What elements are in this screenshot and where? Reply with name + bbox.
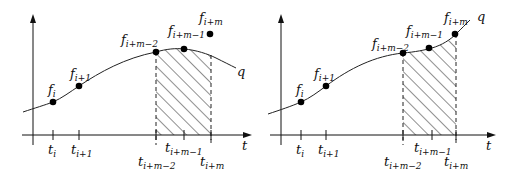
point-label-fi1: fi+1 [69, 66, 91, 83]
tick-label: ti+m [444, 154, 468, 171]
left-panel: fi fi+1 fi+m−2 fi+m−1 fi+m q t ti ti+1 t… [22, 10, 252, 171]
point-label-fim1: fi+m−1 [167, 23, 205, 40]
point-label-fim1: fi+m−1 [405, 23, 443, 40]
hatched-region [156, 40, 211, 136]
arrow-up-icon [30, 14, 36, 23]
tick-label: ti+m [200, 154, 224, 171]
point-label-fim: fi+m [443, 10, 468, 27]
tick-label: ti [296, 142, 304, 159]
point-label-fim2: fi+m−2 [120, 32, 158, 49]
right-panel: fi fi+1 fi+m−2 fi+m−1 fi+m q t ti ti+1 t… [268, 9, 496, 171]
curve-label: q [237, 64, 245, 79]
curve-label: q [477, 9, 485, 24]
tick-label: ti+m−1 [165, 140, 202, 157]
tick-label: ti+1 [71, 142, 92, 159]
point-label-fim2: fi+m−2 [371, 36, 409, 53]
point-label-fi: fi [295, 82, 304, 99]
arrow-up-icon [278, 14, 284, 23]
diagram-canvas: fi fi+1 fi+m−2 fi+m−1 fi+m q t ti ti+1 t… [0, 0, 516, 179]
point-label-fim: fi+m [198, 10, 223, 27]
axis-label: t [242, 138, 248, 153]
tick-label: ti+m−2 [384, 154, 422, 171]
tick-label: ti+1 [318, 142, 339, 159]
axis-label: t [486, 138, 492, 153]
point-label-fi1: fi+1 [313, 66, 335, 83]
tick-label: ti [48, 142, 56, 159]
point-label-fi: fi [47, 82, 56, 99]
